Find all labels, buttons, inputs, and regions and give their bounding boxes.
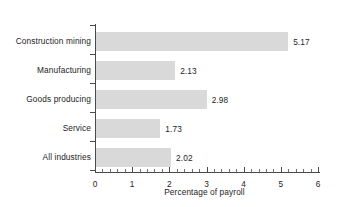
bar-construction-mining [96, 32, 288, 51]
x-axis-minor-tick [140, 169, 141, 172]
bar-all-industries [96, 148, 171, 167]
x-axis-minor-tick [296, 169, 297, 172]
x-axis-line: 0123456 [95, 172, 320, 173]
y-axis-tick-label: Construction mining [16, 36, 91, 46]
y-axis-tick [90, 83, 95, 84]
x-axis-minor-tick [184, 169, 185, 172]
x-axis-major-tick [169, 167, 170, 172]
x-axis-major-tick [318, 167, 319, 172]
y-axis-tick [90, 141, 95, 142]
bar-chart: Construction mining Manufacturing Goods … [0, 0, 361, 207]
x-axis-minor-tick [236, 169, 237, 172]
y-axis-category-labels: Construction mining Manufacturing Goods … [0, 0, 91, 207]
x-axis-title: Percentage of payroll [0, 187, 361, 197]
x-axis-major-tick [281, 167, 282, 172]
x-axis-minor-tick [251, 169, 252, 172]
bar-goods-producing [96, 90, 207, 109]
x-axis-minor-tick [221, 169, 222, 172]
x-axis-minor-tick [288, 169, 289, 172]
bar-value-label: 5.17 [293, 37, 310, 47]
x-axis-minor-tick [177, 169, 178, 172]
x-axis-major-tick [207, 167, 208, 172]
x-axis-minor-tick [162, 169, 163, 172]
x-axis-minor-tick [102, 169, 103, 172]
x-axis-minor-tick [147, 169, 148, 172]
y-axis-tick-label: Service [63, 123, 91, 133]
x-axis-minor-tick [229, 169, 230, 172]
y-axis-tick [90, 54, 95, 55]
y-axis-tick-label: All industries [43, 152, 91, 162]
y-axis-tick [90, 25, 95, 26]
bar-value-label: 1.73 [165, 124, 182, 134]
x-axis-minor-tick [117, 169, 118, 172]
x-axis-minor-tick [154, 169, 155, 172]
x-axis-minor-tick [125, 169, 126, 172]
x-axis-minor-tick [199, 169, 200, 172]
x-axis-minor-tick [311, 169, 312, 172]
x-axis-minor-tick [110, 169, 111, 172]
x-axis-minor-tick [214, 169, 215, 172]
x-axis-minor-tick [192, 169, 193, 172]
y-axis-tick [90, 112, 95, 113]
x-axis-minor-tick [273, 169, 274, 172]
x-axis-major-tick [95, 167, 96, 172]
x-axis-major-tick [132, 167, 133, 172]
bar-value-label: 2.02 [176, 153, 193, 163]
x-axis-minor-tick [266, 169, 267, 172]
y-axis-tick-label: Goods producing [26, 94, 91, 104]
x-axis-minor-tick [303, 169, 304, 172]
plot-area: 5.17 2.13 2.98 1.73 2.02 [96, 25, 319, 172]
bar-value-label: 2.13 [180, 66, 197, 76]
x-axis-title-text: Percentage of payroll [164, 187, 245, 197]
x-axis-minor-tick [259, 169, 260, 172]
y-axis-tick-label: Manufacturing [37, 65, 91, 75]
x-axis-major-tick [244, 167, 245, 172]
bar-value-label: 2.98 [212, 95, 229, 105]
bar-service [96, 119, 160, 138]
y-axis-line [95, 24, 96, 173]
bar-manufacturing [96, 61, 175, 80]
